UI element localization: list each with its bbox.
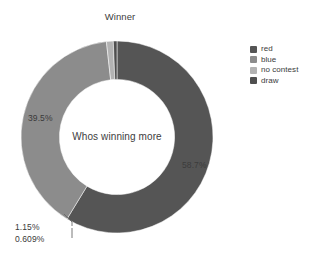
slice-value-label-red: 58.7%: [182, 160, 207, 170]
legend-swatch-icon: [250, 67, 257, 74]
legend-swatch-icon: [250, 77, 257, 84]
legend-swatch-icon: [250, 56, 257, 63]
slice-value-label-draw: 0.609%: [15, 234, 44, 244]
legend-item-blue[interactable]: blue: [250, 56, 298, 64]
legend-item-red[interactable]: red: [250, 45, 298, 53]
chart-legend: redblueno contestdraw: [250, 45, 298, 85]
slice-value-label-blue: 39.5%: [28, 113, 53, 123]
legend-label: red: [261, 45, 273, 53]
legend-label: draw: [261, 77, 279, 85]
legend-swatch-icon: [250, 46, 257, 53]
legend-item-draw[interactable]: draw: [250, 77, 298, 85]
chart-canvas: Winner Whos winning more 39.5% 58.7% 1.1…: [0, 0, 318, 266]
slice-value-label-no-contest: 1.15%: [15, 222, 40, 232]
donut-center-annotation: Whos winning more: [20, 131, 214, 142]
legend-label: blue: [261, 56, 276, 64]
legend-item-no-contest[interactable]: no contest: [250, 66, 298, 74]
legend-label: no contest: [261, 66, 298, 74]
chart-title: Winner: [0, 11, 318, 22]
